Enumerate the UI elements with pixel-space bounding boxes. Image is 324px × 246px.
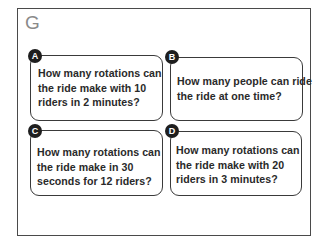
badge-a: A — [28, 49, 42, 63]
line: the ride make with 10 — [38, 81, 162, 96]
badge-b: B — [165, 50, 179, 64]
line: the ride make in 30 — [37, 160, 161, 175]
line: How many rotations can — [38, 66, 162, 81]
line: How many rotations can — [176, 143, 300, 158]
line: How many rotations can — [37, 145, 161, 160]
worksheet-frame — [17, 8, 311, 236]
badge-c: C — [28, 124, 42, 138]
question-text-d: How many rotations can the ride make wit… — [176, 143, 300, 187]
line: riders in 3 minutes? — [176, 172, 300, 187]
question-text-b: How many people can ride the ride at one… — [177, 74, 312, 103]
question-text-a: How many rotations can the ride make wit… — [38, 66, 162, 110]
question-text-c: How many rotations can the ride make in … — [37, 145, 161, 189]
line: seconds for 12 riders? — [37, 174, 161, 189]
badge-d: D — [165, 124, 179, 138]
line: riders in 2 minutes? — [38, 95, 162, 110]
section-letter: G — [25, 13, 40, 33]
line: How many people can ride — [177, 74, 312, 89]
line: the ride at one time? — [177, 89, 312, 104]
line: the ride make with 20 — [176, 158, 300, 173]
